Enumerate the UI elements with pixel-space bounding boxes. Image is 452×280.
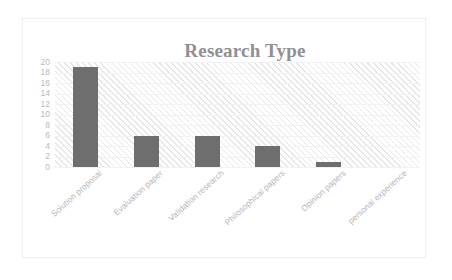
y-axis: 20181614121086420 — [26, 56, 50, 173]
chart-title: Research Type — [120, 40, 370, 62]
bar — [134, 136, 159, 168]
x-tick-label: Opinion papers — [299, 168, 348, 213]
y-tick-label: 8 — [26, 121, 50, 130]
bars-group — [55, 62, 420, 167]
bar — [195, 136, 220, 168]
x-tick-label: personal experience — [346, 168, 409, 226]
bar — [255, 146, 280, 167]
y-tick-label: 10 — [26, 110, 50, 119]
y-tick-label: 14 — [26, 89, 50, 98]
y-tick-label: 6 — [26, 131, 50, 140]
x-tick-label: Solution proposal — [49, 168, 104, 219]
y-tick-label: 16 — [26, 79, 50, 88]
x-tick-label: Philosophical papers — [222, 168, 286, 227]
x-tick-label: Validation research — [166, 168, 226, 223]
x-axis: Solution proposalEvaluation paperValidat… — [0, 168, 452, 263]
y-tick-label: 4 — [26, 142, 50, 151]
y-tick-label: 20 — [26, 58, 50, 67]
y-tick-label: 2 — [26, 152, 50, 161]
y-tick-label: 18 — [26, 68, 50, 77]
bar — [73, 67, 98, 167]
x-tick-label: Evaluation paper — [112, 168, 165, 217]
y-tick-label: 12 — [26, 100, 50, 109]
bar — [316, 162, 341, 167]
